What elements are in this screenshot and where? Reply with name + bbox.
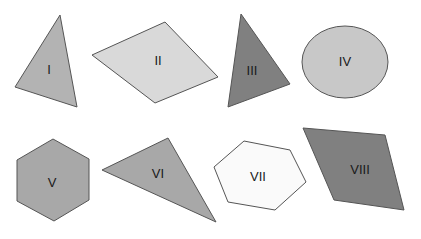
shape-label: IV (339, 54, 352, 69)
shape-iv: IV (302, 26, 388, 98)
shape-label: VI (152, 166, 164, 181)
shape-label: I (47, 62, 51, 77)
shape-label: VIII (350, 162, 370, 177)
shape-label: V (48, 175, 57, 190)
shapes-diagram: I II III IV V VI VII VIII (0, 0, 421, 239)
shape-label: VII (250, 169, 266, 184)
shape-label: II (154, 53, 161, 68)
shape-label: III (247, 63, 258, 78)
